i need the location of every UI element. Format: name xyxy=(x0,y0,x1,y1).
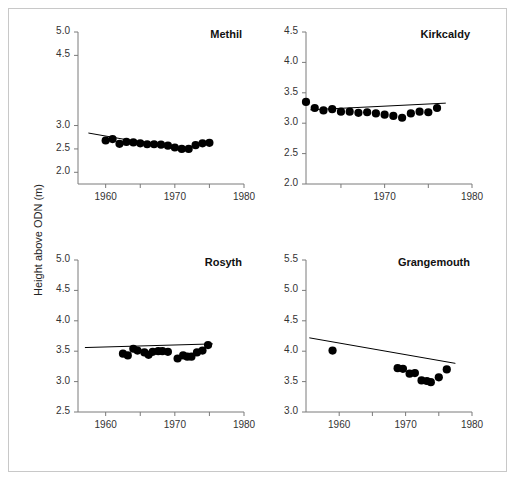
y-tick-label: 2.0 xyxy=(264,177,298,188)
y-tick-label: 3.5 xyxy=(36,344,70,355)
panel-title: Methil xyxy=(210,28,242,40)
data-point xyxy=(136,139,144,147)
data-point xyxy=(328,105,336,113)
data-point xyxy=(398,114,406,122)
x-tick-label: 1960 xyxy=(319,419,359,430)
data-point xyxy=(204,341,212,349)
data-point xyxy=(319,106,327,114)
y-tick-label: 3.0 xyxy=(264,116,298,127)
y-tick-label: 4.0 xyxy=(36,314,70,325)
x-tick-label: 1960 xyxy=(86,191,126,202)
y-tick-label: 3.0 xyxy=(36,119,70,130)
y-tick-label: 3.5 xyxy=(264,86,298,97)
y-tick-label: 5.0 xyxy=(36,25,70,36)
data-point xyxy=(424,108,432,116)
y-tick-label: 4.5 xyxy=(264,314,298,325)
data-point xyxy=(191,141,199,149)
y-tick-label: 2.5 xyxy=(36,405,70,416)
y-tick-label: 4.5 xyxy=(36,48,70,59)
y-tick-label: 2.5 xyxy=(264,147,298,158)
data-point xyxy=(171,143,179,151)
data-point xyxy=(427,378,435,386)
data-point xyxy=(407,109,415,117)
data-point xyxy=(328,346,336,354)
x-tick-label: 1980 xyxy=(452,419,492,430)
panel-title: Rosyth xyxy=(205,256,242,268)
data-point xyxy=(164,142,172,150)
data-point xyxy=(443,365,451,373)
data-point xyxy=(124,351,132,359)
y-tick-label: 3.0 xyxy=(36,375,70,386)
data-point xyxy=(354,109,362,117)
data-point xyxy=(337,108,345,116)
x-tick-label: 1970 xyxy=(386,419,426,430)
y-tick-label: 3.0 xyxy=(264,405,298,416)
x-tick-label: 1980 xyxy=(452,191,492,202)
data-point xyxy=(129,138,137,146)
panel-title: Grangemouth xyxy=(398,256,470,268)
data-point xyxy=(415,108,423,116)
y-tick-label: 4.0 xyxy=(264,55,298,66)
panel-title: Kirkcaldy xyxy=(420,28,470,40)
data-point xyxy=(185,145,193,153)
y-tick-label: 5.5 xyxy=(264,253,298,264)
data-point xyxy=(311,104,319,112)
y-tick-label: 3.5 xyxy=(264,375,298,386)
panel-methil: 2.02.53.04.55.0196019701980Methil xyxy=(30,16,258,224)
data-point xyxy=(115,140,123,148)
data-point xyxy=(133,346,141,354)
data-point xyxy=(435,373,443,381)
data-point xyxy=(372,109,380,117)
panel-rosyth: 2.53.03.54.04.55.0196019701980Rosyth xyxy=(30,244,258,452)
data-point xyxy=(363,108,371,116)
y-tick-label: 5.0 xyxy=(264,283,298,294)
y-tick-label: 2.0 xyxy=(36,165,70,176)
data-point xyxy=(399,365,407,373)
data-point xyxy=(102,136,110,144)
y-tick-label: 4.0 xyxy=(264,344,298,355)
data-point xyxy=(346,108,354,116)
panel-grangemouth: 3.03.54.04.55.05.5196019701980Grangemout… xyxy=(258,244,486,452)
x-tick-label: 1970 xyxy=(155,419,195,430)
y-tick-label: 4.5 xyxy=(36,283,70,294)
y-tick-label: 2.5 xyxy=(36,142,70,153)
data-point xyxy=(381,111,389,119)
figure-root: Height above ODN (m) 2.02.53.04.55.01960… xyxy=(0,0,516,481)
x-tick-label: 1960 xyxy=(86,419,126,430)
data-point xyxy=(302,98,310,106)
data-point xyxy=(433,104,441,112)
data-point xyxy=(389,112,397,120)
y-tick-label: 4.5 xyxy=(264,25,298,36)
x-tick-label: 1970 xyxy=(155,191,195,202)
y-tick-label: 5.0 xyxy=(36,253,70,264)
data-point xyxy=(108,135,116,143)
data-point xyxy=(411,369,419,377)
panel-kirkcaldy: 2.02.53.03.54.04.519701980Kirkcaldy xyxy=(258,16,486,224)
data-point xyxy=(205,139,213,147)
data-point xyxy=(164,348,172,356)
x-tick-label: 1970 xyxy=(365,191,405,202)
data-point xyxy=(157,141,165,149)
